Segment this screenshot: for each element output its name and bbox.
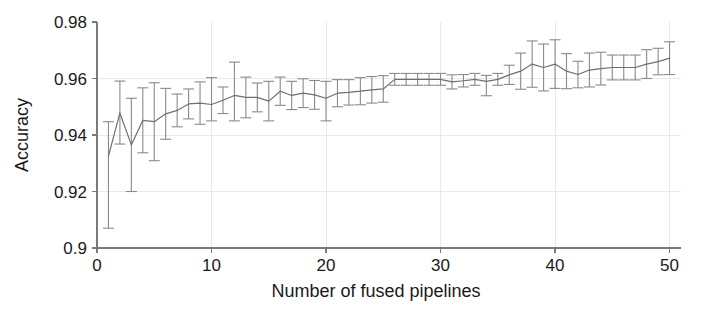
y-axis-title: Accuracy [12,98,32,172]
y-tick-label: 0.94 [54,126,87,145]
x-tick-label: 10 [202,256,221,275]
y-tick-label: 0.92 [54,183,87,202]
x-axis-title: Number of fused pipelines [271,281,480,301]
x-tick-label: 20 [317,256,336,275]
x-tick-label: 50 [660,256,679,275]
accuracy-line-chart: 01020304050 0.90.920.940.960.98 Number o… [0,0,710,310]
figure-background [0,0,710,310]
x-tick-label: 30 [431,256,450,275]
x-tick-label: 0 [92,256,101,275]
y-tick-label: 0.9 [63,239,87,258]
x-tick-label: 40 [546,256,565,275]
chart-figure: 01020304050 0.90.920.940.960.98 Number o… [0,0,710,310]
y-tick-label: 0.98 [54,13,87,32]
y-tick-label: 0.96 [54,70,87,89]
